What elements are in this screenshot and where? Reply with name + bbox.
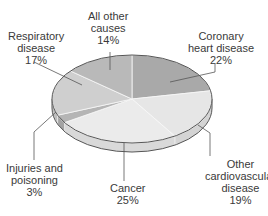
leader-line-3 [34,112,56,160]
label-respiratory: Respiratory disease 17% [8,30,64,66]
label-coronary: Coronary heart disease 22% [188,30,254,66]
label-other-cardio: Other cardiovascular disease 19% [205,158,268,206]
label-injuries: Injuries and poisoning 3% [6,162,63,198]
pie-top-face [52,55,212,143]
label-cancer: Cancer 25% [110,182,145,206]
label-all-other: All other causes 14% [88,10,128,46]
